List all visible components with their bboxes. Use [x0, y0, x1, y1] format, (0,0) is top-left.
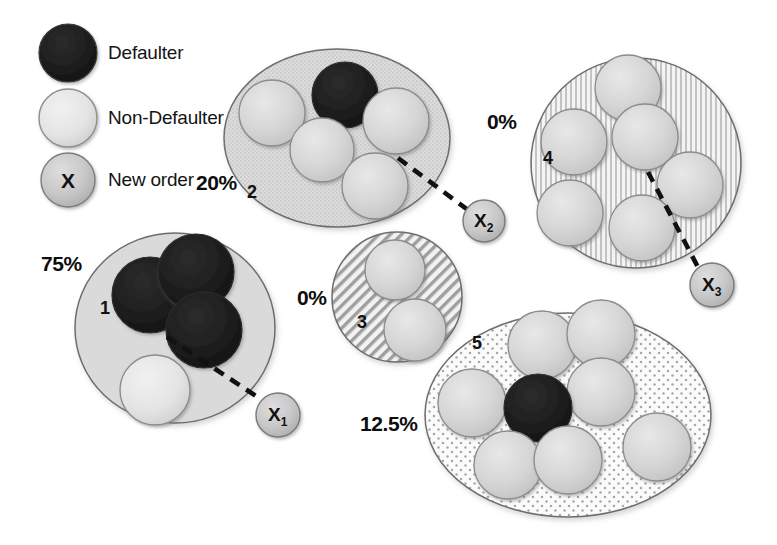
cluster-4-id-label: 4: [543, 148, 553, 169]
cluster-5-member-non-defaulter[interactable]: [508, 311, 576, 379]
new-order-label-X2: X2: [474, 210, 493, 235]
new-order-sub-X2: 2: [487, 221, 494, 235]
new-order-label-X1: X1: [268, 404, 287, 429]
cluster-1-percent-label: 75%: [41, 252, 82, 276]
legend-swatch-non-defaulter: [39, 89, 97, 147]
legend-new-order-x-glyph: X: [61, 169, 75, 192]
new-order-base-X3: X: [702, 274, 715, 295]
cluster-2-percent-label: 20%: [196, 171, 237, 195]
cluster-5-member-non-defaulter[interactable]: [534, 426, 602, 494]
new-order-base-X2: X: [474, 210, 487, 231]
legend-label-defaulter: Defaulter: [108, 42, 183, 64]
cluster-1-member-defaulter[interactable]: [166, 292, 242, 368]
cluster-4-percent-label: 0%: [487, 110, 517, 134]
cluster-3-member-non-defaulter[interactable]: [384, 299, 446, 361]
cluster-5-group[interactable]: [425, 300, 711, 517]
cluster-3-percent-label: 0%: [297, 286, 327, 310]
cluster-4-member-non-defaulter[interactable]: [537, 180, 603, 246]
legend-label-non-defaulter: Non-Defaulter: [108, 107, 224, 129]
legend-label-new-order: New order: [108, 169, 194, 191]
cluster-2-member-non-defaulter[interactable]: [342, 153, 408, 219]
cluster-5-member-non-defaulter[interactable]: [474, 431, 542, 499]
new-order-sub-X1: 1: [281, 415, 288, 429]
cluster-2-group[interactable]: [224, 49, 450, 227]
cluster-4-member-non-defaulter[interactable]: [609, 195, 675, 261]
cluster-5-member-non-defaulter[interactable]: [438, 369, 506, 437]
cluster-1-id-label: 1: [100, 298, 110, 319]
cluster-5-member-non-defaulter[interactable]: [623, 413, 691, 481]
cluster-2-member-non-defaulter[interactable]: [363, 88, 429, 154]
diagram-svg: X: [0, 0, 777, 545]
cluster-1-member-non-defaulter[interactable]: [120, 355, 190, 425]
cluster-5-percent-label: 12.5%: [360, 412, 418, 436]
cluster-4-group[interactable]: [531, 55, 741, 268]
cluster-3-member-non-defaulter[interactable]: [365, 240, 425, 300]
diagram-canvas: X Defaulter Non-Defaulter New order 20% …: [0, 0, 777, 545]
new-order-label-X3: X3: [702, 274, 721, 299]
cluster-1-group[interactable]: [75, 233, 275, 425]
cluster-2-id-label: 2: [247, 182, 257, 203]
cluster-3-group[interactable]: [332, 232, 462, 362]
new-order-sub-X3: 3: [715, 285, 722, 299]
cluster-5-member-non-defaulter[interactable]: [567, 358, 635, 426]
cluster-3-id-label: 3: [357, 312, 367, 333]
cluster-5-id-label: 5: [472, 333, 482, 354]
legend-swatch-defaulter: [39, 24, 97, 82]
new-order-base-X1: X: [268, 404, 281, 425]
